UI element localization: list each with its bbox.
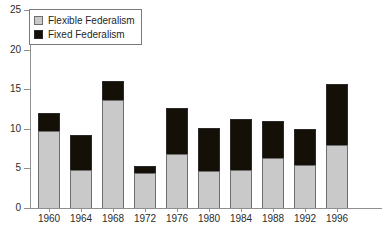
chart-legend: Flexible Federalism Fixed Federalism [29, 9, 142, 45]
stacked-bar-chart: 0510152025 19601964196819721976198019841… [0, 0, 391, 234]
y-tick-label-20: 20 [10, 44, 21, 55]
legend-label-flexible-federalism: Flexible Federalism [48, 15, 135, 26]
bar-segment-flexible-1960 [38, 131, 60, 208]
legend-item-fixed-federalism: Fixed Federalism [34, 27, 135, 41]
x-tick-1996 [337, 208, 338, 212]
x-tick-1964 [81, 208, 82, 212]
y-tick-15: 15 [24, 89, 30, 90]
legend-label-fixed-federalism: Fixed Federalism [48, 29, 125, 40]
y-tick-label-10: 10 [10, 123, 21, 134]
bar-segment-fixed-1992 [294, 129, 316, 165]
bar-segment-flexible-1964 [70, 170, 92, 208]
x-tick-1980 [209, 208, 210, 212]
x-tick-1992 [305, 208, 306, 212]
x-tick-label-1996: 1996 [317, 213, 357, 224]
bar-1980[interactable] [198, 10, 220, 208]
y-tick-label-15: 15 [10, 83, 21, 94]
chart-title [100, 0, 370, 7]
bar-segment-fixed-1980 [198, 128, 220, 171]
bar-1988[interactable] [262, 10, 284, 208]
bar-1992[interactable] [294, 10, 316, 208]
bar-1984[interactable] [230, 10, 252, 208]
y-tick-10: 10 [24, 129, 30, 130]
bar-segment-fixed-1972 [134, 166, 156, 173]
x-tick-1972 [145, 208, 146, 212]
x-tick-1976 [177, 208, 178, 212]
bar-segment-fixed-1976 [166, 108, 188, 154]
bar-segment-flexible-1984 [230, 170, 252, 208]
x-axis-line [30, 208, 382, 209]
bar-1976[interactable] [166, 10, 188, 208]
y-tick-5: 5 [24, 168, 30, 169]
bar-segment-flexible-1972 [134, 173, 156, 208]
x-tick-1988 [273, 208, 274, 212]
x-tick-1968 [113, 208, 114, 212]
bar-segment-flexible-1968 [102, 100, 124, 208]
x-tick-1960 [49, 208, 50, 212]
bar-segment-fixed-1968 [102, 81, 124, 100]
bar-segment-flexible-1980 [198, 171, 220, 208]
bar-segment-flexible-1992 [294, 165, 316, 208]
bar-segment-fixed-1984 [230, 119, 252, 170]
bar-segment-fixed-1988 [262, 121, 284, 158]
bar-segment-flexible-1988 [262, 158, 284, 208]
x-tick-1984 [241, 208, 242, 212]
y-tick-label-5: 5 [15, 162, 21, 173]
bar-segment-flexible-1976 [166, 154, 188, 208]
bar-segment-fixed-1964 [70, 135, 92, 170]
y-tick-label-0: 0 [15, 202, 21, 213]
legend-item-flexible-federalism: Flexible Federalism [34, 13, 135, 27]
y-tick-label-25: 25 [10, 4, 21, 15]
bar-segment-flexible-1996 [326, 145, 348, 208]
bar-1996[interactable] [326, 10, 348, 208]
y-tick-0: 0 [24, 208, 30, 209]
bar-segment-fixed-1960 [38, 113, 60, 131]
legend-swatch-fixed-federalism [34, 30, 43, 39]
legend-swatch-flexible-federalism [34, 16, 43, 25]
bar-segment-fixed-1996 [326, 84, 348, 144]
y-tick-20: 20 [24, 50, 30, 51]
